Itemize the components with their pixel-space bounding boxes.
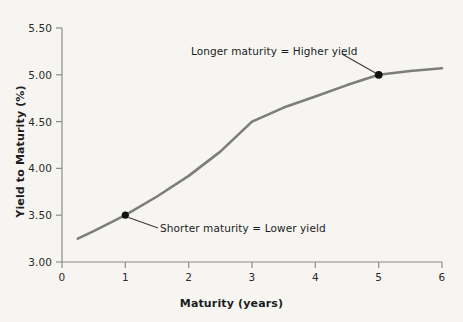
x-tick-label-6: 6 [439, 271, 446, 283]
x-tick-label-2: 2 [185, 271, 192, 283]
chart-canvas: 5.50 5.00 4.50 4.00 3.50 3.00 0 1 2 3 4 … [0, 0, 463, 322]
long-maturity-point [375, 71, 383, 79]
x-tick-label-4: 4 [312, 271, 319, 283]
y-axis-ticks [56, 28, 62, 262]
x-tick-label-5: 5 [375, 271, 382, 283]
x-tick-label-0: 0 [59, 271, 66, 283]
y-axis-title: Yield to Maturity (%) [14, 72, 27, 232]
x-tick-label-3: 3 [249, 271, 256, 283]
x-axis-title: Maturity (years) [0, 297, 463, 310]
yield-curve-line [78, 68, 442, 238]
x-tick-label-1: 1 [122, 271, 129, 283]
y-tick-label-3-00: 3.00 [12, 256, 52, 268]
lower-annotation-leader [129, 218, 159, 229]
x-axis-ticks [62, 262, 442, 268]
lower-annotation-label: Shorter maturity = Lower yield [160, 222, 326, 234]
upper-annotation-label: Longer maturity = Higher yield [191, 45, 357, 57]
y-tick-label-5-50: 5.50 [12, 22, 52, 34]
short-maturity-point [122, 212, 129, 219]
